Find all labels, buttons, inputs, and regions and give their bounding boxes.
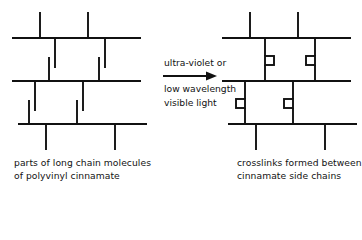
right-caption-line-2: cinnamate side chains — [237, 170, 362, 183]
left-caption-line-2: of polyvinyl cinnamate — [14, 170, 151, 183]
reaction-condition-line-2: low wavelength — [164, 83, 236, 95]
reaction-condition-line-1: ultra-violet or — [164, 57, 226, 69]
left-panel-caption: parts of long chain molecules of polyvin… — [14, 157, 151, 182]
reaction-condition-line-3: visible light — [164, 97, 217, 109]
right-caption-line-1: crosslinks formed between — [237, 157, 362, 170]
left-caption-line-1: parts of long chain molecules — [14, 157, 151, 170]
right-panel-caption: crosslinks formed between cinnamate side… — [237, 157, 362, 182]
